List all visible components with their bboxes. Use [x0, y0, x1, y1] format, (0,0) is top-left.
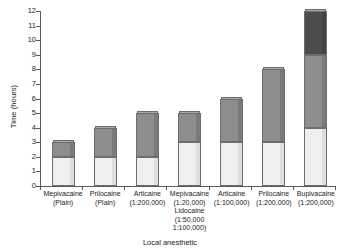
y-tick-12 — [36, 11, 40, 12]
bar-5-segment-light-segment — [220, 142, 243, 186]
y-tick-3 — [36, 142, 40, 143]
bar-1-segment-light-segment — [52, 157, 75, 186]
y-tick-9 — [36, 55, 40, 56]
y-tick-11 — [36, 26, 40, 27]
bar-4 — [178, 113, 201, 186]
bar-2-segment-mid-segment — [94, 128, 117, 157]
x-axis-title: Local anesthetic — [0, 238, 340, 247]
bar-1-segment-mid-segment — [52, 142, 75, 157]
bar-5-top-cap — [221, 97, 242, 100]
y-tick-2 — [36, 157, 40, 158]
bar-4-segment-light-segment — [178, 142, 201, 186]
bar-1 — [52, 142, 75, 186]
plot-area — [40, 11, 335, 186]
bar-2 — [94, 128, 117, 186]
bar-3 — [136, 113, 159, 186]
bar-5 — [220, 99, 243, 187]
y-tick-10 — [36, 40, 40, 41]
bar-5-segment-mid-segment — [220, 99, 243, 143]
y-tick-label-11: 11 — [28, 22, 36, 30]
bar-4-top-cap — [179, 111, 200, 114]
bar-6-top-cap — [263, 67, 284, 70]
x-axis-tick-labels: Mepivacaine (Plain)Prilocaine (Plain)Art… — [34, 190, 340, 240]
bar-3-top-cap — [137, 111, 158, 114]
x-axis-line — [40, 186, 335, 187]
y-tick-5 — [36, 113, 40, 114]
y-tick-label-10: 10 — [28, 36, 36, 44]
bar-chart: Time (hours) 0123456789101112 Mepivacain… — [0, 0, 340, 252]
bar-7-segment-mid-segment — [304, 55, 327, 128]
bar-7-segment-dark-segment — [304, 11, 327, 55]
y-axis-line — [40, 11, 41, 186]
bar-2-segment-light-segment — [94, 157, 117, 186]
bar-7-top-cap — [305, 9, 326, 12]
x-tick-label-7: Bupivacaine (1:200,000) — [288, 190, 340, 207]
bar-1-top-cap — [53, 140, 74, 143]
y-tick-7 — [36, 84, 40, 85]
y-tick-label-12: 12 — [28, 7, 36, 15]
bar-3-segment-mid-segment — [136, 113, 159, 157]
bar-7-segment-light-segment — [304, 128, 327, 186]
bar-2-top-cap — [95, 126, 116, 129]
bar-6-segment-mid-segment — [262, 69, 285, 142]
bar-4-segment-mid-segment — [178, 113, 201, 142]
y-tick-1 — [36, 171, 40, 172]
y-tick-4 — [36, 128, 40, 129]
bar-3-segment-light-segment — [136, 157, 159, 186]
y-axis-tick-labels: 0123456789101112 — [0, 11, 36, 186]
bar-6 — [262, 69, 285, 186]
y-tick-6 — [36, 99, 40, 100]
bar-6-segment-light-segment — [262, 142, 285, 186]
bar-7 — [304, 11, 327, 186]
y-tick-8 — [36, 69, 40, 70]
